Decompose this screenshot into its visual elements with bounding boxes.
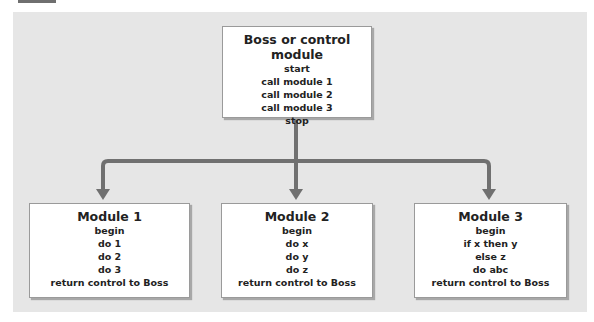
module-2-line: begin	[222, 224, 372, 237]
module-2-line: do y	[222, 250, 372, 263]
module-2-box: Module 2 begin do x do y do z return con…	[221, 203, 373, 298]
module-2-line: return control to Boss	[222, 276, 372, 289]
module-1-line: return control to Boss	[30, 276, 189, 289]
module-2-line: do z	[222, 263, 372, 276]
module-1-line: begin	[30, 224, 189, 237]
boss-module-box: Boss or control module start call module…	[222, 26, 372, 118]
module-3-line: return control to Boss	[415, 276, 566, 289]
module-2-title: Module 2	[222, 209, 372, 224]
module-1-line: do 1	[30, 237, 189, 250]
module-1-title: Module 1	[30, 209, 189, 224]
boss-line: call module 2	[223, 88, 371, 101]
arrowhead-module-2-icon	[289, 189, 303, 200]
module-1-box: Module 1 begin do 1 do 2 do 3 return con…	[29, 203, 190, 298]
module-2-line: do x	[222, 237, 372, 250]
module-3-line: if x then y	[415, 237, 566, 250]
module-3-title: Module 3	[415, 209, 566, 224]
module-1-line: do 2	[30, 250, 189, 263]
module-3-line: begin	[415, 224, 566, 237]
module-3-line: else z	[415, 250, 566, 263]
arrowhead-module-1-icon	[96, 189, 110, 200]
module-3-box: Module 3 begin if x then y else z do abc…	[414, 203, 567, 298]
boss-line: call module 3	[223, 101, 371, 114]
boss-line: start	[223, 62, 371, 75]
module-3-line: do abc	[415, 263, 566, 276]
arrowhead-module-3-icon	[482, 189, 496, 200]
boss-module-title: Boss or control module	[223, 32, 371, 62]
module-1-line: do 3	[30, 263, 189, 276]
boss-line: stop	[223, 114, 371, 127]
boss-line: call module 1	[223, 75, 371, 88]
